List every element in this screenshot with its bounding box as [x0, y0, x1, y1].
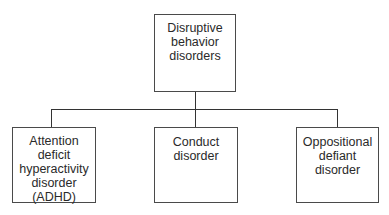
child-node-adhd: Attention deficit hyperactivity disorder… — [12, 127, 96, 203]
connector-adhd-line — [51, 109, 52, 127]
conduct-label-line-1: Conduct — [155, 135, 237, 149]
odd-label-line-1: Oppositional — [297, 135, 378, 149]
connector-conduct-line — [195, 109, 196, 127]
root-label-line-1: Disruptive — [155, 21, 235, 35]
adhd-label-line-2: deficit — [13, 148, 95, 162]
adhd-label-line-1: Attention — [13, 134, 95, 148]
odd-label-line-2: defiant — [297, 149, 378, 163]
child-node-conduct-disorder: Conduct disorder — [154, 127, 238, 203]
adhd-label-line-3: hyperactivity — [13, 162, 95, 176]
root-label-line-2: behavior — [155, 35, 235, 49]
connector-odd-line — [337, 109, 338, 127]
root-node-disruptive-behavior-disorders: Disruptive behavior disorders — [154, 14, 236, 92]
root-stem-line — [195, 91, 196, 110]
child-node-oppositional-defiant-disorder: Oppositional defiant disorder — [296, 127, 379, 203]
odd-label-line-3: disorder — [297, 163, 378, 177]
adhd-label-line-5: (ADHD) — [13, 190, 95, 204]
conduct-label-line-2: disorder — [155, 149, 237, 163]
root-label-line-3: disorders — [155, 49, 235, 63]
adhd-label-line-4: disorder — [13, 176, 95, 190]
